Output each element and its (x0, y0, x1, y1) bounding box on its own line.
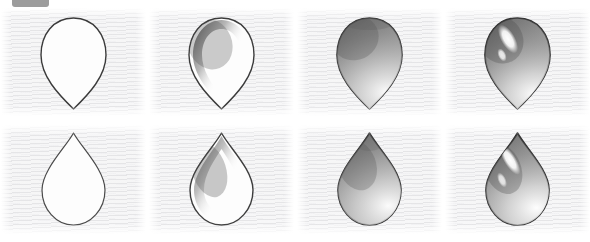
top-left-badge[interactable] (12, 0, 49, 7)
teardrop-point-down-specular (445, 8, 590, 116)
teardrop-point-down-outline (1, 8, 146, 116)
panel-r1c3-full-tone[interactable] (297, 8, 442, 116)
panel-r1c4-specular-highlight[interactable] (445, 8, 590, 116)
teardrop-point-up-crescent (149, 125, 294, 234)
panel-r2c2-crescent-shadow[interactable] (149, 125, 294, 234)
panel-r2c3-full-tone[interactable] (297, 125, 442, 234)
panel-r1c2-crescent-shadow[interactable] (149, 8, 294, 116)
panel-r2c4-specular-highlight[interactable] (445, 125, 590, 234)
panel-r2c1-outline[interactable] (1, 125, 146, 234)
teardrop-point-up-specular (445, 125, 590, 234)
tutorial-panel-grid (0, 8, 587, 234)
teardrop-point-up-outline (1, 125, 146, 234)
teardrop-point-down-full-tone (297, 8, 442, 116)
teardrop-point-up-full-tone (297, 125, 442, 234)
panel-r1c1-outline[interactable] (1, 8, 146, 116)
teardrop-point-down-crescent (149, 8, 294, 116)
